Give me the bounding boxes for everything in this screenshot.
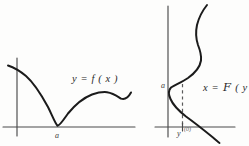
right-function-label-suffix: ( y ) <box>232 82 249 93</box>
script-f-glyph: F <box>222 80 232 94</box>
left-function-label: y = f ( x ) <box>72 74 118 85</box>
figure-illustration <box>0 0 249 146</box>
right-tick-label-y: y <box>177 130 181 138</box>
right-curve-Fy <box>169 5 220 143</box>
right-function-label-prefix: x = <box>203 82 222 93</box>
right-point-label-a: a <box>161 82 165 90</box>
right-tick-label-zero: (0) <box>184 126 191 132</box>
figure-container: y = f ( x ) a x = F ( y ) a y (0) <box>0 0 249 146</box>
left-point-label-a: a <box>55 132 59 140</box>
right-function-label: x = F ( y ) <box>203 82 249 94</box>
left-panel-group <box>3 58 135 136</box>
right-panel-group <box>155 5 235 143</box>
